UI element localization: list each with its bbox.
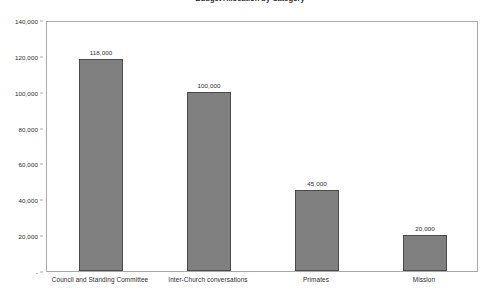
y-axis-tick-mark	[40, 164, 43, 165]
x-axis-category-label: Inter-Church conversations	[168, 276, 247, 283]
y-axis-tick-label: 140,000	[15, 18, 38, 25]
y-axis-tick-label: 100,000	[15, 89, 38, 96]
y-axis-tick-mark	[40, 92, 43, 93]
x-axis: Council and Standing CommitteeInter-Chur…	[46, 276, 478, 296]
x-axis-category-label: Council and Standing Committee	[52, 276, 148, 283]
y-axis: -20,00040,00060,00080,000100,000120,0001…	[0, 21, 43, 272]
y-axis-tick-mark	[40, 200, 43, 201]
bar[interactable]	[187, 92, 231, 271]
y-axis-tick-mark	[40, 272, 43, 273]
y-axis-tick-mark	[40, 56, 43, 57]
y-axis-tick-label: 40,000	[18, 197, 38, 204]
bar-value-label: 45,000	[307, 180, 327, 187]
x-axis-category-label: Mission	[413, 276, 435, 283]
y-axis-tick-label: 80,000	[18, 125, 38, 132]
x-axis-category-label: Primates	[303, 276, 329, 283]
bar-value-label: 118,000	[90, 49, 113, 56]
y-axis-tick-mark	[40, 21, 43, 22]
y-axis-tick-label: 120,000	[15, 53, 38, 60]
y-axis-tick-label: 60,000	[18, 161, 38, 168]
y-axis-tick-mark	[40, 236, 43, 237]
plot-area: 118,000100,00045,00020,000	[46, 21, 478, 272]
bar[interactable]	[79, 59, 123, 271]
bar-value-label: 100,000	[197, 82, 220, 89]
bar-value-label: 20,000	[415, 225, 435, 232]
bar[interactable]	[403, 235, 447, 271]
y-axis-tick-mark	[40, 128, 43, 129]
chart-title: Budget Allocation by Category	[0, 0, 500, 4]
y-axis-tick-label: 20,000	[18, 233, 38, 240]
y-axis-tick-label: -	[36, 269, 38, 276]
chart-figure: Budget Allocation by Category -20,00040,…	[0, 0, 500, 307]
bar[interactable]	[295, 190, 339, 271]
